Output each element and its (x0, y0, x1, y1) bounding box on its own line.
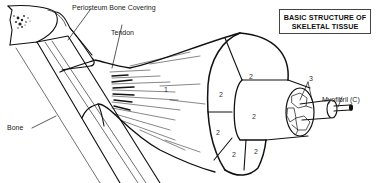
label-myofibril: Myofibril (C) (322, 96, 360, 103)
muscle-cross-section (208, 33, 289, 175)
title-line-1: BASIC STRUCTURE OF (280, 13, 370, 22)
fascicle-tube (234, 80, 310, 140)
label-periosteum: Periosteum Bone Covering (72, 4, 156, 11)
number-fascicle-f: 2 (254, 148, 258, 155)
number-fascicle-e: 2 (232, 151, 236, 158)
diagram-title-box: BASIC STRUCTURE OF SKELETAL TISSUE (279, 9, 371, 34)
number-muscle: 1 (164, 86, 168, 93)
number-fascicle-c: 2 (252, 113, 256, 120)
bone-end (8, 5, 92, 55)
title-line-2: SKELETAL TISSUE (280, 22, 370, 31)
label-tendon: Tendon (111, 29, 134, 36)
fiber-bundle-end (286, 88, 314, 136)
number-fascicle-a: 2 (249, 73, 253, 80)
bone-marrow-stipple (13, 15, 30, 29)
tendon-outline (60, 33, 240, 172)
bone-shaft (10, 36, 160, 183)
number-fiber: 3 (309, 75, 313, 82)
number-fascicle-b: 2 (219, 91, 223, 98)
tendon-fibers-dense (112, 75, 134, 110)
skeletal-tissue-diagram: BASIC STRUCTURE OF SKELETAL TISSUE Perio… (0, 0, 379, 183)
label-bone: Bone (7, 124, 23, 131)
number-fascicle-d: 2 (216, 129, 220, 136)
muscle-fiber (300, 100, 337, 120)
